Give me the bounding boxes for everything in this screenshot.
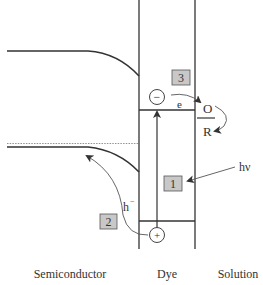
svg-text:+: + [154, 229, 160, 241]
step-box-2: 2 [100, 214, 117, 229]
band-diagram: − + e O R h − hν 3 1 2 Semiconductor Dye… [0, 0, 263, 285]
region-label-semiconductor: Semiconductor [34, 267, 107, 281]
hole-superscript: − [130, 197, 135, 206]
hole-label: h [123, 200, 129, 214]
valence-band-curve [7, 147, 139, 172]
electron-charge: − [150, 90, 165, 105]
reduced-species-label: R [203, 124, 212, 139]
reduction-arrow [215, 106, 227, 131]
step-box-1: 1 [164, 176, 182, 191]
step-box-3: 3 [172, 70, 190, 85]
electron-label: e [177, 98, 182, 110]
light-label: hν [239, 160, 251, 174]
svg-text:3: 3 [178, 71, 184, 85]
svg-text:−: − [154, 90, 161, 104]
conduction-band-curve [7, 51, 139, 76]
oxidized-species-label: O [203, 101, 212, 116]
hole-charge: + [150, 228, 165, 243]
region-label-dye: Dye [157, 267, 177, 281]
svg-text:1: 1 [170, 177, 176, 191]
svg-text:2: 2 [106, 215, 112, 229]
region-label-solution: Solution [218, 267, 259, 281]
